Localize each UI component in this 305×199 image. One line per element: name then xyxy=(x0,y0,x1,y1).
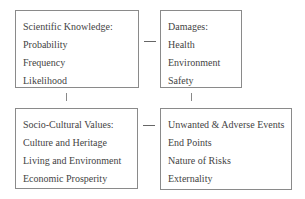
connector-top-horizontal xyxy=(144,41,156,42)
box-item: Culture and Heritage xyxy=(23,134,137,152)
box-item: Economic Prosperity xyxy=(23,170,137,188)
box-item: End Points xyxy=(168,134,291,152)
box-item: Externality xyxy=(168,170,291,188)
connector-right-vertical xyxy=(191,93,192,101)
box-item: Nature of Risks xyxy=(168,152,291,170)
box-title: Scientific Knowledge: xyxy=(23,18,138,36)
box-item: Living and Environment xyxy=(23,152,137,170)
box-item: Safety xyxy=(168,72,241,90)
box-item: Probability xyxy=(23,36,138,54)
connector-left-vertical xyxy=(66,93,67,101)
box-title: Socio-Cultural Values: xyxy=(23,116,137,134)
box-title: Damages: xyxy=(168,18,241,36)
box-item: Likelihood xyxy=(23,72,138,90)
scientific-knowledge-box: Scientific Knowledge: Probability Freque… xyxy=(15,10,139,88)
socio-cultural-values-box: Socio-Cultural Values: Culture and Herit… xyxy=(15,108,138,189)
damages-box: Damages: Health Environment Safety xyxy=(160,10,242,88)
connector-bottom-horizontal xyxy=(143,125,155,126)
box-item: Unwanted & Adverse Events xyxy=(168,116,291,134)
box-item: Environment xyxy=(168,54,241,72)
box-item: Frequency xyxy=(23,54,138,72)
box-item: Health xyxy=(168,36,241,54)
events-box: Unwanted & Adverse Events End Points Nat… xyxy=(160,108,292,190)
